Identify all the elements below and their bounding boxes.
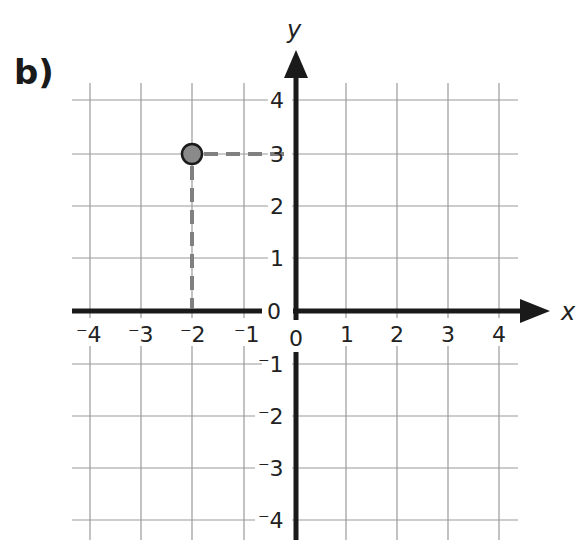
y-axis-arrow-icon — [284, 50, 308, 78]
svg-text:⁻2: ⁻2 — [258, 404, 284, 429]
svg-text:4: 4 — [270, 88, 284, 113]
svg-text:⁻4: ⁻4 — [76, 322, 102, 347]
svg-text:0: 0 — [267, 299, 281, 324]
svg-text:⁻2: ⁻2 — [180, 322, 206, 347]
svg-text:0: 0 — [289, 326, 303, 351]
x-axis-label: x — [560, 298, 576, 326]
svg-text:⁻1: ⁻1 — [258, 352, 284, 377]
guide-lines — [192, 154, 290, 308]
svg-text:1: 1 — [270, 246, 284, 271]
svg-text:2: 2 — [270, 194, 284, 219]
svg-text:⁻3: ⁻3 — [128, 322, 154, 347]
x-tick-labels: ⁻4 ⁻3 ⁻2 ⁻1 0 1 2 3 4 — [76, 322, 506, 351]
svg-text:1: 1 — [340, 322, 354, 347]
y-axis-label: y — [286, 16, 302, 44]
svg-text:4: 4 — [492, 322, 506, 347]
coordinate-grid: y x ⁻4 ⁻3 ⁻2 ⁻1 0 1 2 3 4 4 3 2 1 0 ⁻1 ⁻… — [0, 0, 582, 540]
svg-text:3: 3 — [441, 322, 455, 347]
svg-text:⁻3: ⁻3 — [258, 456, 284, 481]
svg-text:3: 3 — [270, 142, 284, 167]
svg-text:⁻4: ⁻4 — [258, 508, 284, 533]
plotted-point — [182, 144, 202, 164]
svg-text:2: 2 — [390, 322, 404, 347]
svg-text:⁻1: ⁻1 — [234, 322, 260, 347]
x-axis-arrow-icon — [520, 299, 550, 323]
